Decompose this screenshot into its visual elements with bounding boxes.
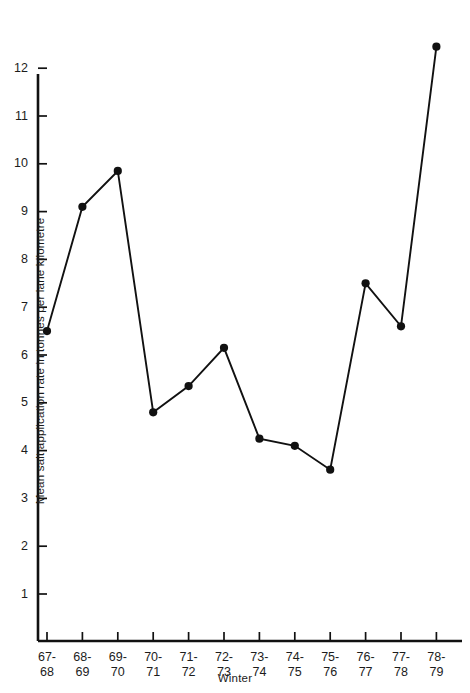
y-tick-label: 4 — [2, 444, 28, 457]
x-tick-label: 78-79 — [413, 650, 459, 680]
line-chart: Mean salt application rate in tonnes per… — [0, 0, 470, 693]
tick-marks — [38, 68, 436, 641]
data-point — [397, 322, 405, 330]
data-point — [291, 442, 299, 450]
y-tick-label: 2 — [2, 540, 28, 553]
data-point — [255, 435, 263, 443]
data-point — [362, 279, 370, 287]
y-tick-label: 7 — [2, 301, 28, 314]
data-point — [149, 408, 157, 416]
data-point — [220, 344, 228, 352]
y-tick-label: 10 — [2, 157, 28, 170]
x-tick-label-line: 78- — [413, 650, 459, 665]
y-tick-label: 11 — [2, 110, 28, 123]
plot-area — [0, 0, 470, 693]
data-markers — [43, 43, 441, 474]
y-tick-label: 1 — [2, 588, 28, 601]
data-point — [78, 203, 86, 211]
y-tick-label: 8 — [2, 253, 28, 266]
data-point — [185, 382, 193, 390]
data-point — [432, 43, 440, 51]
y-tick-label: 6 — [2, 349, 28, 362]
y-axis-title: Mean salt application rate in tonnes per… — [34, 161, 46, 561]
y-tick-label: 3 — [2, 492, 28, 505]
y-tick-label: 5 — [2, 396, 28, 409]
y-tick-label: 9 — [2, 205, 28, 218]
x-tick-label-line: 79 — [413, 665, 459, 680]
data-point — [326, 466, 334, 474]
data-point — [114, 167, 122, 175]
series-line — [47, 47, 436, 470]
axes — [38, 74, 462, 641]
data-series — [47, 47, 436, 470]
y-tick-label: 12 — [2, 62, 28, 75]
